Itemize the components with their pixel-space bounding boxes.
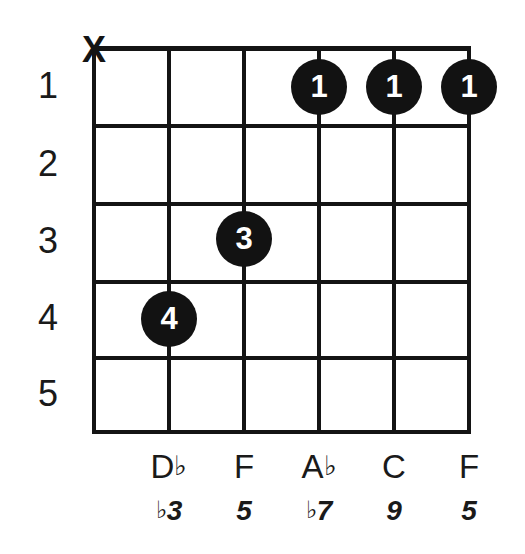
fret-number-4: 4	[27, 300, 69, 336]
note-letter-string-2: D	[151, 448, 175, 485]
note-letter-string-3: F	[234, 448, 254, 485]
finger-dot-string6-fret1: 1	[441, 59, 497, 115]
fret-line-4	[92, 356, 471, 360]
note-accidental-string-4: ♭	[324, 451, 337, 481]
interval-degree-string-5: 9	[386, 495, 402, 526]
interval-string-3: 5	[209, 497, 279, 525]
finger-dot-string3-fret3: 3	[216, 211, 272, 267]
finger-dot-string4-fret1: 1	[291, 59, 347, 115]
fret-number-3: 3	[27, 223, 69, 259]
interval-string-4: ♭7	[284, 497, 354, 525]
note-name-string-5: C	[359, 450, 429, 483]
note-name-string-4: A♭	[284, 450, 354, 483]
fret-line-3	[92, 280, 471, 284]
fret-number-5: 5	[27, 376, 69, 412]
interval-string-5: 9	[359, 497, 429, 525]
note-name-string-3: F	[209, 450, 279, 483]
fret-number-1: 1	[27, 68, 69, 104]
note-letter-string-5: C	[382, 448, 406, 485]
note-letter-string-6: F	[459, 448, 479, 485]
interval-degree-string-2: 3	[167, 495, 183, 526]
finger-dot-string5-fret1: 1	[366, 59, 422, 115]
finger-dot-string2-fret4: 4	[141, 291, 197, 347]
note-name-string-2: D♭	[134, 450, 204, 483]
interval-degree-string-4: 7	[317, 495, 333, 526]
interval-string-2: ♭3	[134, 497, 204, 525]
interval-accidental-string-2: ♭	[156, 496, 167, 523]
interval-accidental-string-4: ♭	[306, 496, 317, 523]
interval-string-6: 5	[434, 497, 504, 525]
interval-degree-string-6: 5	[461, 495, 477, 526]
mute-marker-string-1: X	[74, 32, 114, 68]
note-name-string-6: F	[434, 450, 504, 483]
interval-degree-string-3: 5	[236, 495, 252, 526]
nut-line	[92, 46, 471, 51]
fret-line-2	[92, 202, 471, 206]
fret-line-5	[92, 430, 471, 434]
note-accidental-string-2: ♭	[174, 451, 187, 481]
note-letter-string-4: A	[301, 448, 323, 485]
fret-number-2: 2	[27, 146, 69, 182]
chord-diagram: X 1 2 3 4 5 1 1 1 3 4 D♭ F A♭ C F ♭3 5 ♭…	[0, 0, 525, 554]
string-line-1	[92, 48, 96, 434]
string-line-2	[167, 48, 171, 434]
fret-line-1	[92, 124, 471, 128]
